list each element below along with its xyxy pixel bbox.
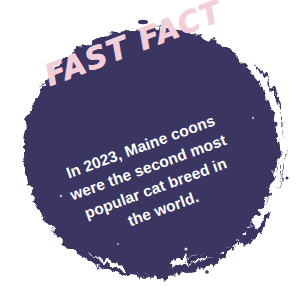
paint-blob-shape	[0, 0, 304, 296]
sticker-canvas: FAST FACT In 2023, Maine coons were the …	[0, 0, 304, 296]
paint-blob-svg	[0, 0, 304, 296]
blob-body	[24, 28, 276, 277]
